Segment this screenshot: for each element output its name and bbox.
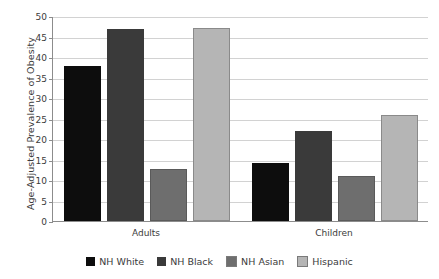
y-tick-mark <box>49 38 53 39</box>
y-tick-label: 35 <box>36 74 47 84</box>
x-axis-label-children: Children <box>315 228 352 238</box>
legend-label: Hispanic <box>312 256 352 267</box>
legend-label: NH White <box>99 256 144 267</box>
bar <box>150 169 187 221</box>
y-tick-mark <box>49 120 53 121</box>
y-tick-mark <box>49 17 53 18</box>
y-tick-mark <box>49 181 53 182</box>
y-tick-label: 30 <box>36 94 47 104</box>
legend-swatch-icon <box>157 257 166 266</box>
chart-legend: NH WhiteNH BlackNH AsianHispanic <box>0 256 439 267</box>
y-tick-mark <box>49 58 53 59</box>
y-tick-label: 0 <box>41 217 47 227</box>
y-tick-label: 20 <box>36 135 47 145</box>
legend-item-nh-white[interactable]: NH White <box>86 256 144 267</box>
legend-item-hispanic[interactable]: Hispanic <box>297 256 352 267</box>
legend-swatch-icon <box>86 257 95 266</box>
legend-swatch-icon <box>297 256 308 267</box>
y-tick-mark <box>49 140 53 141</box>
bar <box>107 29 144 221</box>
y-tick-mark <box>49 202 53 203</box>
x-axis-label-adults: Adults <box>132 228 160 238</box>
y-tick-label: 25 <box>36 115 47 125</box>
legend-label: NH Black <box>170 256 213 267</box>
plot-area: 05101520253035404550 <box>52 17 428 222</box>
y-tick-label: 5 <box>41 197 47 207</box>
bar <box>252 163 289 221</box>
y-tick-label: 10 <box>36 176 47 186</box>
y-tick-label: 50 <box>36 12 47 22</box>
gridline <box>53 17 428 18</box>
bar <box>381 115 418 221</box>
legend-item-nh-black[interactable]: NH Black <box>157 256 213 267</box>
y-tick-mark <box>49 99 53 100</box>
y-tick-label: 15 <box>36 156 47 166</box>
legend-label: NH Asian <box>241 256 284 267</box>
y-tick-mark <box>49 79 53 80</box>
legend-swatch-icon <box>226 256 237 267</box>
legend-item-nh-asian[interactable]: NH Asian <box>226 256 284 267</box>
y-tick-label: 40 <box>36 53 47 63</box>
y-tick-mark <box>49 161 53 162</box>
bar <box>193 28 230 221</box>
y-tick-label: 45 <box>36 33 47 43</box>
obesity-prevalence-bar-chart: Age-Adjusted Prevalence of Obesity 05101… <box>0 0 439 279</box>
bar <box>338 176 375 221</box>
bar <box>64 66 101 221</box>
bar <box>295 131 332 221</box>
y-tick-mark <box>49 222 53 223</box>
y-axis-title: Age-Adjusted Prevalence of Obesity <box>25 24 36 224</box>
